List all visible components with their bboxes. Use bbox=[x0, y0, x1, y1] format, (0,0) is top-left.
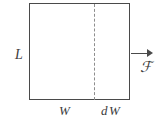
width-increment-W-symbol: W bbox=[109, 103, 120, 118]
force-arrow-head bbox=[147, 49, 153, 57]
dashed-divider-line bbox=[94, 4, 95, 100]
force-label-script-f: ℱ bbox=[140, 60, 152, 75]
width-label-W: W bbox=[59, 104, 70, 117]
film-rectangle bbox=[29, 3, 130, 100]
width-increment-label-dW: dW bbox=[101, 104, 120, 117]
height-label-L: L bbox=[15, 48, 23, 62]
diagram-canvas: L W dW ℱ bbox=[0, 0, 164, 129]
differential-d-symbol: d bbox=[101, 103, 108, 118]
